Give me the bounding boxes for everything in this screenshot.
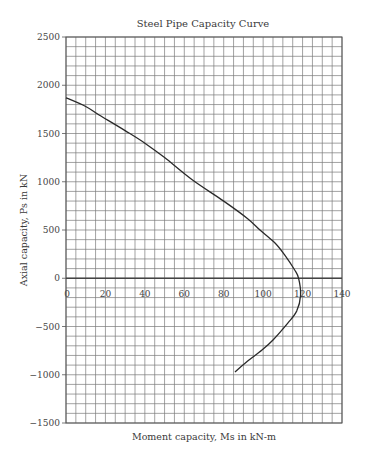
x-tick-label: 0 (64, 289, 70, 299)
x-tick-label: 20 (100, 289, 112, 299)
y-tick-labels: −1500−1000−50005001000150020002500 (30, 32, 61, 428)
y-axis-label: Axial capacity, Ps in kN (18, 174, 29, 287)
x-tick-label: 40 (139, 289, 151, 299)
x-tick-label: 120 (294, 289, 311, 299)
y-tick-label: 2000 (37, 80, 60, 90)
chart-title: Steel Pipe Capacity Curve (137, 18, 270, 29)
y-tick-label: −500 (35, 322, 60, 332)
x-tick-label: 60 (179, 289, 191, 299)
grid (66, 37, 342, 423)
y-tick-label: 1000 (37, 177, 60, 187)
x-tick-label: 100 (255, 289, 272, 299)
capacity-curve-line (66, 98, 301, 372)
capacity-chart: Steel Pipe Capacity Curve 02040608010012… (0, 0, 367, 464)
y-tick-label: 0 (54, 273, 60, 283)
x-tick-label: 140 (333, 289, 350, 299)
y-tick-label: −1000 (30, 370, 61, 380)
y-tick-label: 1500 (37, 129, 60, 139)
x-axis-label: Moment capacity, Ms in kN-m (132, 431, 276, 442)
y-tick-label: 500 (43, 225, 60, 235)
y-tick-label: 2500 (37, 32, 60, 42)
x-tick-label: 80 (218, 289, 230, 299)
y-tick-label: −1500 (30, 418, 61, 428)
